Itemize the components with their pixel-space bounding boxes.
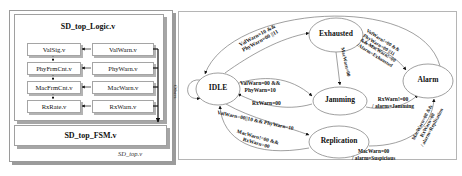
transition-label-line: / alarm=Suspicious [352,155,395,162]
transition-jamming-alarm-label: RxWarn!=00 / alarm=Jamming [372,96,414,109]
state-jamming-label: Jamming [313,95,367,104]
transition-label-line: / alarm=Jamming [372,103,414,110]
transition-jamming-idle-label: RxWarn=00 [252,100,281,106]
transition-label-line: ValWarn=00 && [240,80,280,87]
state-exhausted-label: Exhausted [309,29,363,38]
transition-label-line: RxWarn!=00 [372,96,414,103]
state-idle-label: IDLE [196,83,240,92]
state-replication-label: Replication [309,136,369,145]
transition-label-line: MacWarn=00 [352,148,395,155]
transition-label-line: PhyWarn=10 [240,87,280,94]
transition-idle-self-label: Others [173,85,178,98]
transition-idle-jamming-label: ValWarn=00 && PhyWarn=10 [240,80,280,93]
state-alarm-label: Alarm [403,75,453,84]
transition-replication-alarm-suspicious-label: MacWarn=00 / alarm=Suspicious [352,148,395,161]
